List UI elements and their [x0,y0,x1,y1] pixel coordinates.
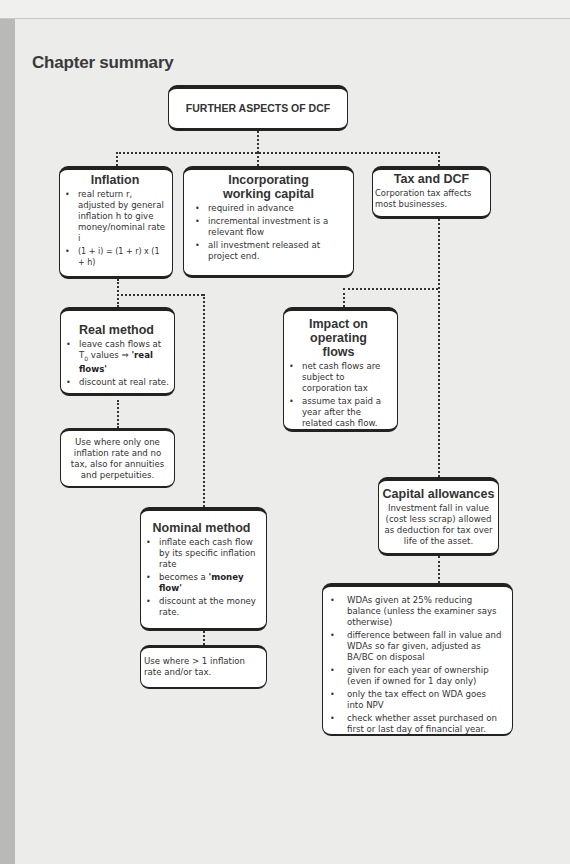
connector [117,400,119,428]
working-capital-bullet: incremental investment is a relevant flo… [192,216,345,238]
wda-box: WDAs given at 25% reducing balance (unle… [322,583,513,736]
connector [438,152,440,166]
connector [117,294,203,296]
connector [438,556,440,583]
operating-flows-bullet: assume tax paid a year after the related… [286,396,391,429]
nominal-method-box: Nominal method inflate each cash flow by… [140,507,267,631]
connector [343,288,345,307]
working-capital-bullet: all investment released at project end. [192,240,345,262]
wda-bullet: check whether asset purchased on first o… [327,713,504,735]
bullet-text: values ⇒ [88,350,131,360]
nominal-use-box: Use where > 1 inflation rate and/or tax. [140,645,267,689]
capital-allowances-box: Capital allowances Investment fall in va… [378,477,499,556]
tax-heading: Tax and DCF [375,172,488,186]
operating-flows-bullet: net cash flows are subject to corporatio… [286,361,391,394]
wda-bullet: only the tax effect on WDA goes into NPV [327,689,504,711]
connector [203,294,205,507]
nominal-method-bullet: becomes a 'money flow' [143,572,260,594]
top-band [0,0,570,19]
real-method-bullet: discount at real rate. [63,377,170,388]
real-use-text: Use where only one inflation rate and no… [71,437,164,480]
capital-allowances-heading: Capital allowances [381,487,496,501]
inflation-heading: Inflation [62,173,168,187]
root-box: FURTHER ASPECTS OF DCF [168,85,348,131]
root-label: FURTHER ASPECTS OF DCF [186,103,330,114]
capital-allowances-text: Investment fall in value (cost less scra… [381,503,496,547]
working-capital-box: Incorporating working capital required i… [183,166,354,278]
connector [203,631,205,645]
wda-bullet: difference between fall in value and WDA… [327,630,504,663]
nominal-use-text: Use where > 1 inflation rate and/or tax. [144,656,245,677]
page-title: Chapter summary [32,53,174,73]
nominal-method-bullet: discount at the money rate. [143,596,260,618]
real-method-box: Real method leave cash flows at T0 value… [60,307,175,396]
operating-flows-box: Impact on operating flows net cash flows… [283,307,398,432]
nominal-method-heading: Nominal method [143,521,260,535]
tax-box: Tax and DCF Corporation tax affects most… [372,166,491,219]
inflation-formula: (1 + i) = (1 + r) x (1 + h) [62,246,168,268]
real-method-heading: Real method [63,323,170,337]
connector [117,279,119,307]
connector [438,219,440,477]
wda-bullet: WDAs given at 25% reducing balance (unle… [327,595,504,628]
connector [257,131,259,153]
bullet-text: becomes a [159,572,209,582]
connector [116,152,440,154]
inflation-box: Inflation real return r, adjusted by gen… [59,166,173,279]
working-capital-heading: Incorporating working capital [192,173,345,201]
connector [343,288,438,290]
page-edge-strip [0,19,15,864]
connector [116,152,118,166]
operating-flows-heading: Impact on operating flows [286,317,391,359]
inflation-bullet: real return r, adjusted by general infla… [62,189,168,244]
connector [257,152,259,166]
nominal-method-bullet: inflate each cash flow by its specific i… [143,537,260,570]
real-use-box: Use where only one inflation rate and no… [60,428,175,488]
real-method-bullet: leave cash flows at T0 values ⇒ 'real fl… [63,339,170,375]
wda-bullet: given for each year of ownership (even i… [327,665,504,687]
working-capital-bullet: required in advance [192,203,345,214]
tax-text: Corporation tax affects most businesses. [375,188,488,210]
